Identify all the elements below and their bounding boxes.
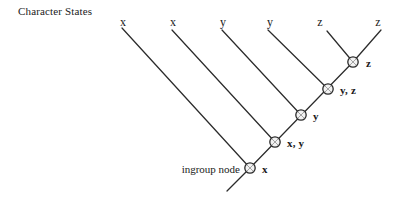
internal-node-4[interactable] (323, 84, 333, 94)
tip-branch-4 (268, 30, 328, 89)
node-state-label-3: y (313, 111, 319, 122)
tip-state-label-5: z (317, 16, 322, 28)
node-state-label-5: z (366, 58, 371, 69)
tip-branch-3 (222, 30, 301, 115)
internal-node-3[interactable] (296, 110, 306, 120)
internal-node-5[interactable] (348, 57, 358, 67)
tip-branch-5 (327, 31, 353, 62)
cladogram-figure: Character States xxyyzz xx, yyy, zz ingr… (0, 0, 398, 202)
tip-state-label-4: y (267, 16, 273, 28)
tip-state-label-2: x (170, 16, 176, 28)
tip-state-label-1: x (120, 16, 126, 28)
internal-node-2[interactable] (270, 137, 280, 147)
internal-node-1[interactable] (245, 163, 255, 173)
tip-branch-2 (172, 30, 275, 142)
tip-state-label-3: y (220, 16, 226, 28)
tip-branch-1 (122, 28, 250, 168)
node-state-label-1: x (262, 164, 268, 175)
ingroup-node-annotation: ingroup node (182, 164, 240, 175)
node-state-label-4: y, z (340, 85, 356, 96)
character-states-caption: Character States (18, 6, 92, 17)
node-state-label-2: x, y (287, 138, 304, 149)
tip-state-label-6: z (375, 16, 380, 28)
